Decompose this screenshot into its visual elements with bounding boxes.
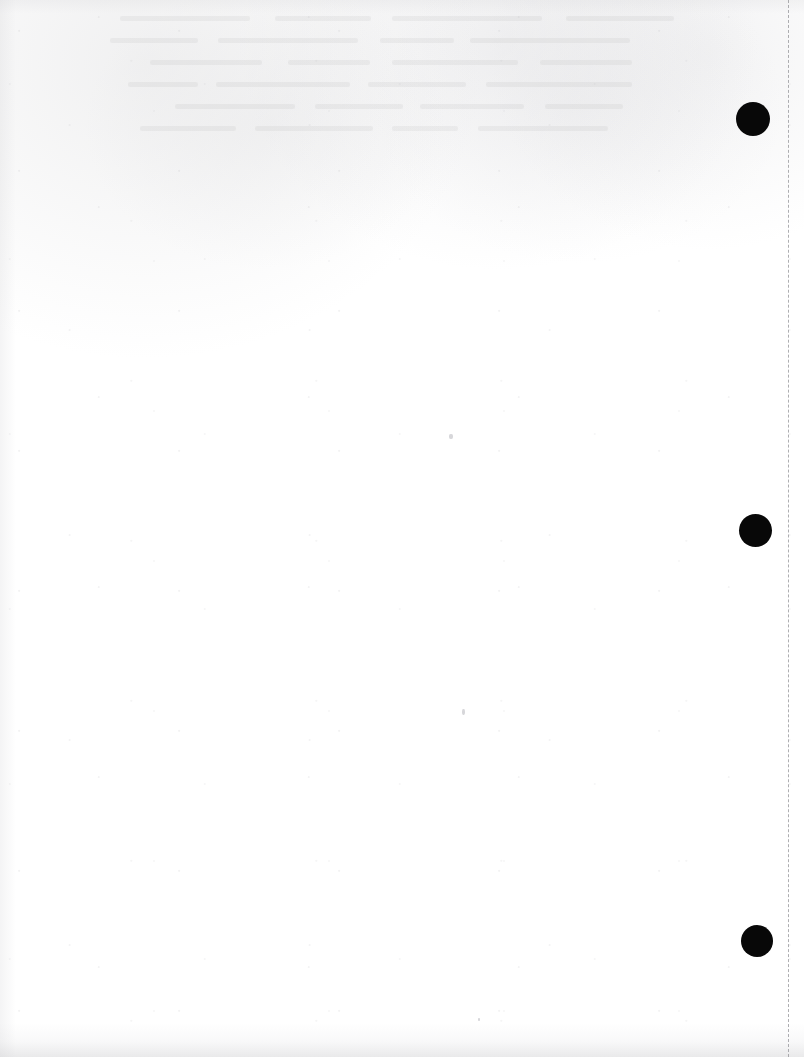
- punch-hole-top: [736, 102, 770, 136]
- paper-grain-texture: [0, 0, 804, 1057]
- punch-hole-bottom: [741, 925, 773, 957]
- scan-shadow-top: [0, 0, 804, 14]
- show-through-ghost-text: [0, 0, 804, 180]
- stray-speck-lower: [462, 709, 465, 715]
- punch-hole-middle: [739, 514, 772, 547]
- page-text-content: [0, 0, 1, 1]
- scanned-page: [0, 0, 804, 1057]
- stray-speck-bottom: [478, 1018, 480, 1021]
- dashed-perforation-line: [788, 0, 789, 1057]
- scan-shadow-left: [0, 0, 16, 1057]
- scan-shadow-bottom: [0, 1023, 804, 1057]
- paper-surface: [0, 0, 804, 1057]
- stray-speck-upper: [449, 434, 453, 439]
